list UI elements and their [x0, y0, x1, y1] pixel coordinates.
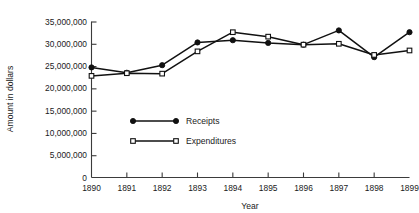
x-tick-label: 1898	[365, 183, 384, 193]
data-point-receipts	[160, 63, 165, 68]
x-tick-label: 1893	[188, 183, 207, 193]
line-chart: 05,000,00010,000,00015,000,00020,000,000…	[0, 0, 419, 213]
data-point-expenditures	[231, 30, 236, 35]
legend-marker	[130, 118, 135, 123]
data-point-expenditures	[337, 41, 342, 46]
data-point-receipts	[230, 38, 235, 43]
data-point-expenditures	[89, 74, 94, 79]
data-point-expenditures	[301, 42, 306, 47]
data-point-receipts	[266, 40, 271, 45]
y-tick-label: 10,000,000	[45, 128, 87, 138]
y-tick-label: 30,000,000	[45, 39, 87, 49]
data-point-expenditures	[160, 71, 165, 76]
legend-marker	[173, 118, 178, 123]
series-layer	[89, 28, 412, 78]
data-point-expenditures	[195, 49, 200, 54]
y-tick-label: 0	[82, 173, 87, 183]
data-point-receipts	[195, 40, 200, 45]
y-tick-label: 35,000,000	[45, 17, 87, 27]
x-tick-label: 1890	[82, 183, 101, 193]
y-tick-label: 5,000,000	[50, 150, 88, 160]
data-point-receipts	[407, 30, 412, 35]
x-tick-label: 1899	[400, 183, 419, 193]
x-tick-label: 1891	[118, 183, 137, 193]
x-axis-title: Year	[241, 201, 259, 211]
x-tick-label: 1894	[224, 183, 243, 193]
data-point-receipts	[89, 65, 94, 70]
chart-legend: ReceiptsExpenditures	[130, 116, 236, 146]
y-tick-label: 20,000,000	[45, 83, 87, 93]
data-point-expenditures	[125, 71, 130, 76]
series-line-expenditures	[92, 32, 410, 76]
y-tick-label: 15,000,000	[45, 106, 87, 116]
x-axis-tick-marks	[127, 173, 374, 178]
x-tick-label: 1897	[330, 183, 349, 193]
x-tick-label: 1895	[259, 183, 278, 193]
data-point-receipts	[336, 28, 341, 33]
chart-container: 05,000,00010,000,00015,000,00020,000,000…	[0, 0, 419, 213]
x-tick-label: 1892	[153, 183, 172, 193]
data-point-expenditures	[407, 48, 412, 53]
data-point-expenditures	[372, 53, 377, 58]
x-tick-label: 1896	[294, 183, 313, 193]
legend-label: Expenditures	[186, 136, 236, 146]
legend-label: Receipts	[186, 116, 219, 126]
x-axis-tick-labels: 1890189118921893189418951896189718981899	[82, 183, 419, 193]
data-point-expenditures	[266, 34, 271, 39]
y-axis-title: Amount in dollars	[5, 66, 15, 132]
y-axis-tick-marks	[92, 22, 97, 156]
legend-marker	[131, 139, 136, 144]
y-axis-tick-labels: 05,000,00010,000,00015,000,00020,000,000…	[45, 17, 87, 183]
legend-marker	[174, 139, 179, 144]
y-tick-label: 25,000,000	[45, 61, 87, 71]
